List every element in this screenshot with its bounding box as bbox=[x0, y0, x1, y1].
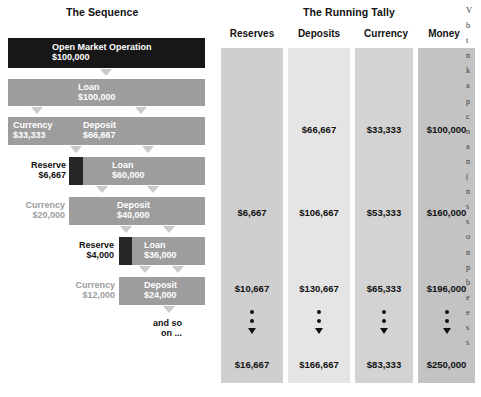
tally-value: $10,667 bbox=[221, 283, 283, 294]
arrow-down-icon bbox=[100, 69, 112, 76]
seq-label-loan-60000: Loan $60,000 bbox=[112, 160, 145, 180]
margin-text-line: b bbox=[466, 18, 481, 33]
tally-header-deposits: Deposits bbox=[288, 28, 350, 39]
margin-text-line: t bbox=[466, 33, 481, 48]
dot-icon bbox=[445, 319, 449, 323]
and-so-on-line1: and so bbox=[133, 318, 182, 328]
seq-label-text: Currency bbox=[13, 200, 65, 210]
seq-label-and-so-on: and so on ... bbox=[133, 318, 182, 338]
seq-label-loan-100000: Loan $100,000 bbox=[78, 82, 116, 102]
margin-text-line: p bbox=[466, 94, 481, 109]
and-so-on-line2: on ... bbox=[133, 328, 182, 338]
seq-amount-text: $6,667 bbox=[28, 170, 66, 180]
arrow-down-icon bbox=[172, 266, 184, 273]
seq-label-text: Currency bbox=[13, 120, 53, 130]
seq-label-text: Currency bbox=[63, 280, 115, 290]
margin-text-line: a bbox=[466, 139, 481, 154]
seq-amount-text: $36,000 bbox=[144, 250, 177, 260]
tally-value: $6,667 bbox=[221, 207, 283, 218]
seq-label-reserve-6667: Reserve $6,667 bbox=[28, 160, 66, 180]
margin-text-line: ( bbox=[466, 169, 481, 184]
seq-label-text: Deposit bbox=[83, 120, 116, 130]
margin-text-line: p bbox=[466, 260, 481, 275]
margin-text-line: e bbox=[466, 290, 481, 305]
tally-value: $33,333 bbox=[355, 124, 413, 135]
margin-text-line: V bbox=[466, 3, 481, 18]
dot-icon bbox=[317, 319, 321, 323]
seq-amount-text: $33,333 bbox=[13, 130, 53, 140]
dot-icon bbox=[382, 319, 386, 323]
tally-column-reserves: $6,667 $10,667 $16,667 bbox=[221, 48, 283, 383]
tally-header-currency: Currency bbox=[355, 28, 417, 39]
margin-text-line: b bbox=[466, 275, 481, 290]
seq-label-text: Deposit bbox=[144, 280, 177, 290]
seq-amount-text: $12,000 bbox=[63, 290, 115, 300]
margin-text-line: k bbox=[466, 63, 481, 78]
triangle-down-icon bbox=[380, 328, 388, 334]
triangle-down-icon bbox=[443, 328, 451, 334]
dot-icon bbox=[250, 319, 254, 323]
seq-amount-text: $4,000 bbox=[76, 250, 114, 260]
arrow-down-icon bbox=[31, 107, 43, 114]
tally-column-deposits: $66,667 $106,667 $130,667 $166,667 bbox=[288, 48, 350, 383]
tally-ellipsis-marker bbox=[288, 310, 350, 334]
arrow-down-icon bbox=[163, 226, 175, 233]
seq-amount-text: $40,000 bbox=[117, 210, 150, 220]
margin-text-line: s bbox=[466, 320, 481, 335]
seq-label-deposit-40000: Deposit $40,000 bbox=[117, 200, 150, 220]
tally-value: $130,667 bbox=[288, 283, 350, 294]
tally-value: $65,333 bbox=[355, 283, 413, 294]
seq-label-deposit-66667: Deposit $66,667 bbox=[83, 120, 116, 140]
arrow-down-icon bbox=[139, 266, 151, 273]
margin-text-line: n bbox=[466, 48, 481, 63]
seq-label-text: Deposit bbox=[117, 200, 150, 210]
margin-text-line: o bbox=[466, 229, 481, 244]
seq-label-loan-36000: Loan $36,000 bbox=[144, 240, 177, 260]
margin-text-line: e bbox=[466, 305, 481, 320]
sequence-panel: Open Market Operation $100,000 Loan $100… bbox=[0, 0, 215, 397]
dot-icon bbox=[382, 310, 386, 314]
tally-value: $16,667 bbox=[221, 359, 283, 370]
seq-amount-text: $100,000 bbox=[52, 52, 152, 62]
tally-value: $106,667 bbox=[288, 207, 350, 218]
seq-label-text: Reserve bbox=[28, 160, 66, 170]
seq-bar-reserve-6667-block bbox=[69, 157, 83, 185]
seq-amount-text: $66,667 bbox=[83, 130, 116, 140]
seq-label-text: Open Market Operation bbox=[52, 42, 152, 52]
seq-label-reserve-4000: Reserve $4,000 bbox=[76, 240, 114, 260]
arrow-down-icon bbox=[163, 306, 175, 313]
figure-canvas: The Sequence The Running Tally Open Mark… bbox=[0, 0, 481, 397]
seq-label-currency-20000: Currency $20,000 bbox=[13, 200, 65, 220]
seq-amount-text: $20,000 bbox=[13, 210, 65, 220]
tally-header-reserves: Reserves bbox=[221, 28, 283, 39]
seq-label-currency-12000: Currency $12,000 bbox=[63, 280, 115, 300]
arrow-down-icon bbox=[147, 186, 159, 193]
margin-text-line: c bbox=[466, 109, 481, 124]
seq-amount-text: $60,000 bbox=[112, 170, 145, 180]
seq-label-text: Loan bbox=[144, 240, 177, 250]
page-margin-text-clipped: Vbtnkapcnan(nssonpbeess bbox=[466, 3, 481, 395]
dot-icon bbox=[445, 310, 449, 314]
seq-label-deposit-24000: Deposit $24,000 bbox=[144, 280, 177, 300]
seq-amount-text: $100,000 bbox=[78, 92, 116, 102]
triangle-down-icon bbox=[248, 328, 256, 334]
tally-value: $83,333 bbox=[355, 359, 413, 370]
seq-amount-text: $24,000 bbox=[144, 290, 177, 300]
tally-panel-title: The Running Tally bbox=[303, 6, 395, 18]
dot-icon bbox=[317, 310, 321, 314]
margin-text-line: n bbox=[466, 245, 481, 260]
margin-text-line: a bbox=[466, 78, 481, 93]
margin-text-line: s bbox=[466, 335, 481, 350]
seq-label-open-market-operation: Open Market Operation $100,000 bbox=[52, 42, 152, 62]
seq-label-text: Loan bbox=[78, 82, 116, 92]
arrow-down-icon bbox=[70, 146, 82, 153]
tally-value: $53,333 bbox=[355, 207, 413, 218]
dot-icon bbox=[250, 310, 254, 314]
tally-ellipsis-marker bbox=[355, 310, 413, 334]
margin-text-line: s bbox=[466, 199, 481, 214]
arrow-down-icon bbox=[120, 226, 132, 233]
seq-bar-reserve-4000-block bbox=[119, 237, 132, 265]
triangle-down-icon bbox=[315, 328, 323, 334]
arrow-down-icon bbox=[96, 186, 108, 193]
margin-text-line: n bbox=[466, 154, 481, 169]
